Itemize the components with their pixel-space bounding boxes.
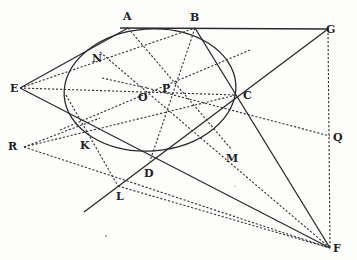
label-G: G: [326, 23, 335, 36]
label-P: P: [162, 82, 170, 95]
label-O: O: [138, 91, 148, 104]
label-R: R: [8, 140, 18, 153]
dash-R-F: [24, 147, 330, 248]
label-B: B: [190, 11, 199, 24]
label-C: C: [243, 89, 252, 102]
label-A: A: [122, 10, 132, 23]
line-E-A: [20, 28, 128, 88]
label-K: K: [80, 139, 90, 152]
label-D: D: [144, 167, 154, 180]
label-M: M: [226, 152, 238, 165]
dash-K-L: [66, 95, 118, 186]
stray-dot: [234, 185, 235, 186]
stray-dot: [105, 235, 107, 237]
dash-B-D: [150, 28, 195, 161]
dash-N-F: [100, 52, 330, 248]
dash-G-F: [328, 29, 330, 248]
label-N: N: [92, 52, 102, 65]
label-F: F: [333, 242, 341, 255]
dash-E-C: [20, 88, 236, 95]
diagram-canvas: A B G E N O P C R K Q M D L F: [0, 0, 357, 260]
dash-R-C: [24, 95, 236, 147]
label-E: E: [10, 82, 18, 95]
label-L: L: [116, 190, 124, 203]
label-Q: Q: [333, 131, 343, 144]
line-E-F: [20, 88, 330, 248]
dash-O-Q: [147, 88, 330, 136]
geometry-diagram: A B G E N O P C R K Q M D L F: [0, 0, 357, 260]
